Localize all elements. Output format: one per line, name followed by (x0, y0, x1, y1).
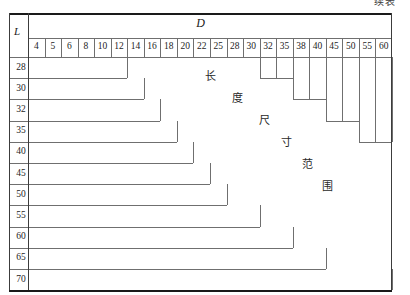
column-divider-40 (309, 38, 310, 57)
right-step-left-riser-1 (293, 57, 294, 99)
left-step-bottom-row-35 (28, 142, 177, 143)
row-divider-30 (9, 78, 28, 79)
right-step-bottom-1 (293, 99, 326, 100)
column-header-45: 45 (326, 37, 343, 56)
dimension-range-table: L D 456810121416182022252830323538404550… (9, 13, 392, 290)
range-annotation-char-3: 寸 (281, 137, 292, 148)
table-header: L D 456810121416182022252830323538404550… (9, 13, 392, 57)
left-step-riser-row-55 (260, 205, 261, 226)
column-header-16: 16 (144, 37, 161, 56)
right-step-left-riser-0 (260, 57, 261, 78)
column-divider-50 (342, 38, 343, 57)
table-left-border (9, 13, 10, 290)
column-divider-12 (111, 38, 112, 57)
range-annotation-char-4: 范 (302, 159, 313, 170)
column-header-14: 14 (127, 37, 144, 56)
row-divider-60 (9, 227, 28, 228)
continued-table-label: 续表 (374, 0, 396, 8)
row-divider-70 (9, 269, 28, 270)
column-header-28: 28 (227, 37, 244, 56)
column-divider-38 (293, 38, 294, 57)
column-header-4: 4 (28, 37, 45, 56)
column-header-12: 12 (111, 37, 128, 56)
column-divider-16 (144, 38, 145, 57)
right-step-inner-divider-3 (375, 57, 376, 142)
column-divider-20 (177, 38, 178, 57)
right-step-inner-divider-2 (342, 57, 343, 121)
column-header-40: 40 (309, 37, 326, 56)
column-divider-22 (193, 38, 194, 57)
column-divider-5 (45, 38, 46, 57)
column-header-5: 5 (45, 37, 62, 56)
right-step-inner-divider-0 (276, 57, 277, 78)
range-annotation-char-5: 围 (322, 181, 333, 192)
row-divider-40 (9, 142, 28, 143)
header-bottom-border (9, 57, 392, 58)
column-divider-14 (127, 38, 128, 57)
column-header-30: 30 (243, 37, 260, 56)
column-header-32: 32 (260, 37, 277, 56)
row-divider-45 (9, 163, 28, 164)
column-divider-25 (210, 38, 211, 57)
left-step-riser-row-35 (177, 121, 178, 142)
left-step-bottom-row-28 (28, 78, 127, 79)
left-step-bottom-row-30 (28, 99, 144, 100)
column-header-38: 38 (293, 37, 310, 56)
column-divider-32 (260, 38, 261, 57)
left-step-bottom-row-65 (28, 269, 326, 270)
column-header-25: 25 (210, 37, 227, 56)
range-annotation-char-1: 度 (232, 93, 243, 104)
left-step-riser-row-28 (127, 57, 128, 78)
left-step-riser-row-30 (144, 78, 145, 99)
table-body: 2830323540455055606570长度尺寸范围 (9, 57, 392, 290)
column-divider-18 (160, 38, 161, 57)
page-header: 续表 (0, 0, 410, 13)
row-divider-32 (9, 99, 28, 100)
column-divider-8 (78, 38, 79, 57)
row-divider-50 (9, 184, 28, 185)
column-divider-28 (227, 38, 228, 57)
left-step-bottom-row-60 (28, 248, 293, 249)
left-step-bottom-row-55 (28, 227, 260, 228)
header-mid-border (28, 38, 392, 39)
left-step-riser-row-32 (160, 99, 161, 120)
right-step-bottom-0 (260, 78, 293, 79)
right-step-bottom-3 (359, 142, 392, 143)
column-header-22: 22 (193, 37, 210, 56)
column-divider-60 (375, 38, 376, 57)
column-axis-label: D (9, 16, 392, 31)
left-step-riser-row-50 (227, 184, 228, 205)
left-step-bottom-row-50 (28, 205, 227, 206)
column-divider-30 (243, 38, 244, 57)
row-label-divider (28, 13, 29, 290)
column-header-6: 6 (61, 37, 78, 56)
right-step-left-riser-3 (359, 57, 360, 142)
right-step-bottom-2 (326, 121, 359, 122)
right-step-outer-riser (392, 57, 393, 142)
column-header-8: 8 (78, 37, 95, 56)
left-step-riser-row-45 (210, 163, 211, 184)
left-step-bottom-row-45 (28, 184, 210, 185)
range-annotation-char-0: 长 (205, 71, 216, 82)
right-step-left-riser-2 (326, 57, 327, 121)
left-step-riser-row-60 (293, 227, 294, 248)
table-top-border (9, 13, 392, 15)
left-step-riser-row-40 (193, 142, 194, 163)
column-header-20: 20 (177, 37, 194, 56)
left-step-bottom-row-40 (28, 163, 193, 164)
column-header-35: 35 (276, 37, 293, 56)
table-bottom-border (9, 290, 392, 292)
column-header-50: 50 (342, 37, 359, 56)
column-divider-55 (359, 38, 360, 57)
column-header-10: 10 (94, 37, 111, 56)
left-step-riser-row-70 (392, 269, 393, 290)
left-step-bottom-row-32 (28, 121, 160, 122)
range-annotation-char-2: 尺 (259, 115, 270, 126)
column-divider-35 (276, 38, 277, 57)
table-right-border (391, 13, 392, 290)
column-divider-45 (326, 38, 327, 57)
right-step-inner-divider-1 (309, 57, 310, 99)
column-header-55: 55 (359, 37, 376, 56)
column-header-18: 18 (160, 37, 177, 56)
row-divider-65 (9, 248, 28, 249)
